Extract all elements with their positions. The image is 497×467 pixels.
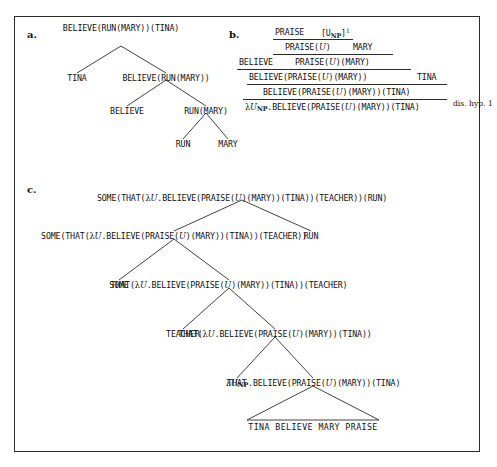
tree-c-node-r2: THAT(λU.BELIEVE(PRAISE(U)(MARY))(TINA))(… bbox=[111, 280, 348, 290]
c-r2-var2: U bbox=[224, 280, 231, 290]
c-r3-mid: .BELIEVE(PRAISE( bbox=[215, 329, 293, 339]
c-root-tail: )(MARY))(TINA))(TEACHER))(RUN) bbox=[242, 193, 387, 203]
tree-c-terminal-string: TINA BELIEVE MARY PRAISE bbox=[248, 422, 377, 432]
c-l1-mid: .BELIEVE(PRAISE( bbox=[101, 231, 179, 241]
c-r2-tail: )(MARY))(TINA))(TEACHER) bbox=[231, 280, 347, 290]
tree-c-node-root: SOME(THAT(λU.BELIEVE(PRAISE(U)(MARY))(TI… bbox=[97, 193, 387, 203]
c-r3-open: THAT( bbox=[178, 329, 202, 339]
c-r2-open: THAT( bbox=[111, 280, 135, 290]
c-r4-tail: )(MARY))(TINA) bbox=[332, 378, 400, 388]
c-l1-tail: )(MARY))(TINA))(TEACHER)) bbox=[186, 231, 307, 241]
c-root-open: SOME(THAT( bbox=[97, 193, 145, 203]
tree-c-node-l1: SOME(THAT(λU.BELIEVE(PRAISE(U)(MARY))(TI… bbox=[41, 231, 307, 241]
c-root-var2: U bbox=[235, 193, 242, 203]
c-r4-var2: U bbox=[326, 378, 333, 388]
c-l1-open: SOME(THAT( bbox=[41, 231, 89, 241]
c-r4-subscript: NP bbox=[238, 381, 248, 389]
tree-c-node-r4: λUNP.BELIEVE(PRAISE(U)(MARY))(TINA) bbox=[226, 378, 401, 389]
c-r4-var: U bbox=[231, 378, 238, 388]
c-r4-mid: .BELIEVE(PRAISE( bbox=[248, 378, 326, 388]
c-r2-mid: .BELIEVE(PRAISE( bbox=[147, 280, 225, 290]
c-l1-var2: U bbox=[179, 231, 186, 241]
c-root-mid: .BELIEVE(PRAISE( bbox=[157, 193, 235, 203]
tree-c-node-run: RUN bbox=[304, 231, 319, 241]
figure-frame: a. BELIEVE(RUN(MARY))(TINA) TINA BELIEVE… bbox=[14, 16, 480, 452]
c-r3-tail: )(MARY))(TINA)) bbox=[299, 329, 372, 339]
c-r3-var2: U bbox=[292, 329, 299, 339]
tree-c-node-r3: THAT(λU.BELIEVE(PRAISE(U)(MARY))(TINA)) bbox=[178, 329, 371, 339]
